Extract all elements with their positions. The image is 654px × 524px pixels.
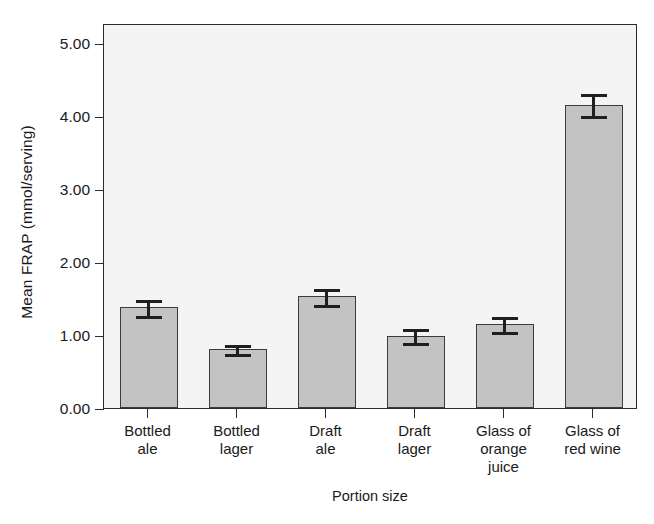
- x-axis-title: Portion size: [103, 487, 637, 505]
- x-axis-tick-mark: [325, 409, 327, 418]
- bar: [298, 296, 356, 408]
- x-axis-tick-label: Bottled ale: [102, 422, 194, 458]
- error-bar: [565, 94, 623, 119]
- error-bar: [476, 317, 534, 335]
- plot-area: [103, 24, 637, 409]
- x-axis-tick-label: Bottled lager: [191, 422, 283, 458]
- x-axis-tick-label: Glass of red wine: [547, 422, 639, 458]
- error-bar-cap-top: [492, 317, 518, 320]
- bar: [476, 324, 534, 408]
- error-bar-cap-bottom: [492, 332, 518, 335]
- error-bar: [120, 300, 178, 319]
- x-axis-tick-mark: [592, 409, 594, 418]
- y-axis-tick-labels: 0.001.002.003.004.005.00: [28, 0, 90, 524]
- bar: [209, 349, 267, 408]
- error-bar-cap-top: [314, 289, 340, 292]
- error-bar-cap-bottom: [225, 354, 251, 357]
- x-axis-tick-mark: [414, 409, 416, 418]
- x-axis-tick-label: Glass of orange juice: [458, 422, 550, 476]
- error-bar-cap-bottom: [403, 343, 429, 346]
- error-bar-cap-top: [403, 329, 429, 332]
- y-axis-tick-label: 1.00: [28, 329, 90, 343]
- x-axis-tick-mark: [503, 409, 505, 418]
- bar: [120, 307, 178, 408]
- y-axis-tick-label: 3.00: [28, 183, 90, 197]
- error-bar: [298, 289, 356, 308]
- x-axis-tick-label: Draft lager: [369, 422, 461, 458]
- y-axis-tick-label: 2.00: [28, 256, 90, 270]
- error-bar: [209, 345, 267, 357]
- error-bar: [387, 329, 445, 347]
- y-axis-tick-label: 0.00: [28, 402, 90, 416]
- x-axis-tick-mark: [236, 409, 238, 418]
- y-axis-tick-label: 5.00: [28, 37, 90, 51]
- error-bar-cap-bottom: [581, 116, 607, 119]
- bar: [387, 336, 445, 408]
- error-bar-cap-bottom: [314, 305, 340, 308]
- chart-figure: Mean FRAP (mmol/serving) 0.001.002.003.0…: [0, 0, 654, 524]
- x-axis-tick-label: Draft ale: [280, 422, 372, 458]
- x-axis-tick-mark: [147, 409, 149, 418]
- y-axis-tick-mark: [95, 409, 104, 410]
- bar: [565, 105, 623, 408]
- error-bar-cap-top: [136, 300, 162, 303]
- error-bar-cap-top: [581, 94, 607, 97]
- error-bar-cap-top: [225, 345, 251, 348]
- error-bar-cap-bottom: [136, 316, 162, 319]
- y-axis-tick-label: 4.00: [28, 110, 90, 124]
- plot-inner: [104, 25, 636, 408]
